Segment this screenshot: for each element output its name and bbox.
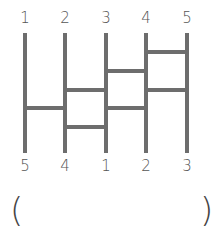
rung-3-4-a [106, 69, 146, 73]
top-label-2: 2 [55, 9, 75, 27]
rung-2-3-b [65, 125, 106, 129]
close-paren: ) [200, 190, 213, 230]
rung-1-2 [25, 106, 65, 110]
bottom-label-2: 4 [55, 157, 75, 175]
rung-4-5-a [146, 50, 187, 54]
bottom-label-4: 2 [136, 157, 156, 175]
rung-4-5-b [146, 88, 187, 92]
top-label-4: 4 [136, 9, 156, 27]
bottom-label-5: 3 [177, 157, 197, 175]
bottom-label-1: 5 [15, 157, 35, 175]
vertical-line-2 [63, 33, 67, 153]
vertical-line-3 [104, 33, 108, 153]
bottom-label-3: 1 [96, 157, 116, 175]
vertical-line-1 [23, 33, 27, 153]
top-label-1: 1 [15, 9, 35, 27]
rung-2-3-a [65, 88, 106, 92]
rung-3-4-b [106, 106, 146, 110]
top-label-3: 3 [96, 9, 116, 27]
top-label-5: 5 [177, 9, 197, 27]
open-paren: ( [10, 190, 23, 230]
